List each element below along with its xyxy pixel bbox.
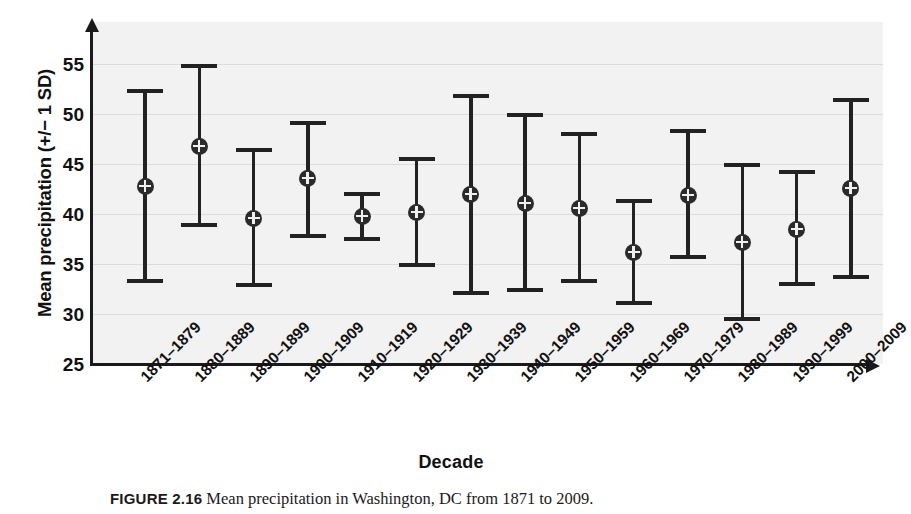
figure-caption-label: FIGURE 2.16 xyxy=(110,490,202,507)
figure-caption-text: Mean precipitation in Washington, DC fro… xyxy=(206,489,593,508)
x-axis-title: Decade xyxy=(0,452,902,473)
figure-caption: FIGURE 2.16 Mean precipitation in Washin… xyxy=(110,489,870,514)
